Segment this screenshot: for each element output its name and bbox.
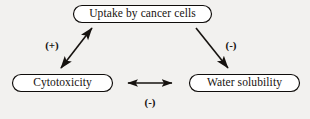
node-cytotoxicity[interactable]: Cytotoxicity [13, 75, 113, 92]
diagram-canvas: (+) (-) (-) Uptake by cancer cells Cytot… [0, 0, 310, 119]
edge-uptake-solubility: (-) [196, 28, 237, 68]
node-label-uptake: Uptake by cancer cells [89, 7, 196, 20]
edge-cytotoxicity-solubility: (-) [128, 83, 172, 109]
edge-label-positive: (+) [45, 39, 59, 52]
node-label-solubility: Water solubility [207, 76, 282, 89]
node-uptake-by-cancer-cells[interactable]: Uptake by cancer cells [74, 6, 212, 23]
node-label-cytotoxicity: Cytotoxicity [33, 76, 92, 89]
node-water-solubility[interactable]: Water solubility [190, 75, 300, 92]
edge-label-negative-right: (-) [226, 39, 237, 52]
edge-line-uptake-solubility [196, 28, 228, 68]
relationship-diagram: (+) (-) (-) Uptake by cancer cells Cytot… [0, 0, 310, 119]
edge-line-cytotoxicity-uptake [61, 28, 92, 68]
edge-label-negative-bottom: (-) [145, 96, 156, 109]
edge-cytotoxicity-uptake: (+) [45, 28, 92, 68]
